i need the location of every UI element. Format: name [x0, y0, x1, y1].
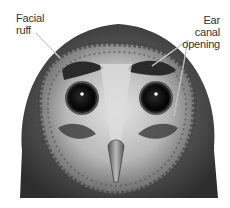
owl-diagram: Facial ruff Ear canal opening [0, 0, 230, 208]
ear-canal-opening-label: Ear canal opening [176, 14, 220, 50]
facial-ruff-label: Facial ruff [16, 12, 44, 36]
